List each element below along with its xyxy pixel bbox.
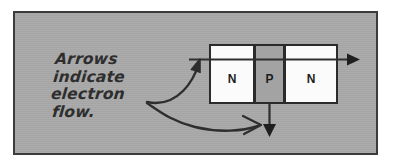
block-n-collector: N: [284, 44, 338, 104]
block-label-p-base: P: [265, 72, 273, 86]
caption-line-2: indicate: [52, 69, 164, 87]
block-p-base: P: [254, 44, 285, 104]
figure-root: Arrows indicate electron flow. N P N: [0, 0, 395, 166]
caption-line-3: electron: [50, 86, 164, 104]
diagram-panel: Arrows indicate electron flow. N P N: [13, 11, 378, 155]
block-n-emitter: N: [209, 44, 255, 104]
caption-line-1: Arrows: [54, 51, 164, 69]
npn-transistor-blocks: N P N: [209, 44, 338, 104]
caption-pointer-lower-arrow: [147, 103, 261, 134]
block-label-n-collector: N: [307, 72, 316, 86]
block-label-n-emitter: N: [228, 72, 237, 86]
vertical-flow-arrow: [263, 104, 276, 137]
handwritten-caption: Arrows indicate electron flow.: [53, 51, 163, 121]
caption-line-4: flow.: [51, 104, 164, 122]
